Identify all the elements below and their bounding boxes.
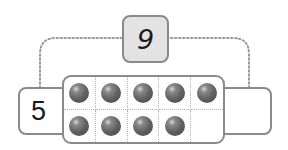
counter-icon bbox=[165, 83, 185, 103]
ten-frame-cell bbox=[159, 110, 191, 143]
ten-frame-cell bbox=[128, 110, 160, 143]
ten-frame-cell bbox=[191, 77, 223, 110]
ten-frame-cell bbox=[64, 77, 96, 110]
counter-icon bbox=[165, 116, 185, 136]
counter-icon bbox=[197, 83, 217, 103]
whole-box[interactable]: 9 bbox=[122, 15, 169, 63]
ten-frame-cell bbox=[96, 110, 128, 143]
counter-icon bbox=[133, 83, 153, 103]
left-part-value: 5 bbox=[31, 96, 46, 127]
counter-icon bbox=[101, 116, 121, 136]
ten-frame-cell-empty bbox=[191, 110, 223, 143]
counter-icon bbox=[133, 116, 153, 136]
counter-icon bbox=[69, 83, 89, 103]
ten-frame-cell bbox=[159, 77, 191, 110]
ten-frame-cell bbox=[64, 110, 96, 143]
ten-frame-cell bbox=[96, 77, 128, 110]
ten-frame-cell bbox=[128, 77, 160, 110]
counter-icon bbox=[69, 116, 89, 136]
counter-icon bbox=[101, 83, 121, 103]
whole-value: 9 bbox=[137, 24, 154, 55]
ten-frame bbox=[62, 75, 225, 144]
